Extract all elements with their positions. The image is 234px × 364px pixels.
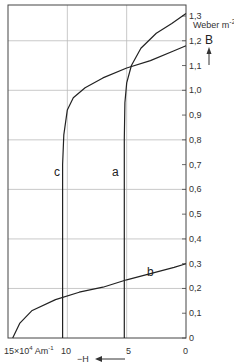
x-axis-label: −H bbox=[77, 354, 89, 364]
y-tick-label: 0,5 bbox=[189, 209, 202, 219]
x-tick-0: 0 bbox=[183, 346, 188, 356]
y-axis-label: B bbox=[205, 33, 213, 47]
y-tick-label: 0,7 bbox=[189, 160, 202, 170]
curve-label-a: a bbox=[112, 165, 119, 179]
y-tick-label: 1,1 bbox=[189, 61, 202, 71]
curve-label-b: b bbox=[147, 265, 154, 279]
y-axis-arrow-icon bbox=[207, 47, 212, 65]
curve-b bbox=[13, 264, 186, 338]
x-tick-5: 5 bbox=[126, 346, 131, 356]
x-axis-arrow-icon bbox=[95, 356, 125, 362]
y-tick-label: 0,2 bbox=[189, 283, 202, 293]
y-tick-label: 0,1 bbox=[189, 308, 202, 318]
x-tick-15: 15×104 Am-1 bbox=[4, 345, 54, 356]
y-tick-label: 0,8 bbox=[189, 135, 202, 145]
x-tick-10: 10 bbox=[61, 346, 71, 356]
y-tick-label: 1,2 bbox=[189, 36, 202, 46]
curve-a bbox=[124, 14, 186, 339]
y-tick-label: 0 bbox=[189, 333, 194, 343]
bh-curves-chart: 00,10,20,30,40,50,60,70,80,91,01,11,21,3… bbox=[0, 0, 234, 364]
y-tick-label: 0,3 bbox=[189, 259, 202, 269]
y-axis-unit: Weber m-2 bbox=[193, 18, 234, 30]
curves bbox=[13, 14, 186, 339]
y-tick-label: 1,0 bbox=[189, 85, 202, 95]
curve-label-c: c bbox=[54, 165, 60, 179]
y-tick-label: 0,9 bbox=[189, 110, 202, 120]
y-tick-label: 0,6 bbox=[189, 184, 202, 194]
y-axis-ticks: 00,10,20,30,40,50,60,70,80,91,01,11,21,3 bbox=[182, 11, 202, 343]
y-tick-label: 0,4 bbox=[189, 234, 202, 244]
